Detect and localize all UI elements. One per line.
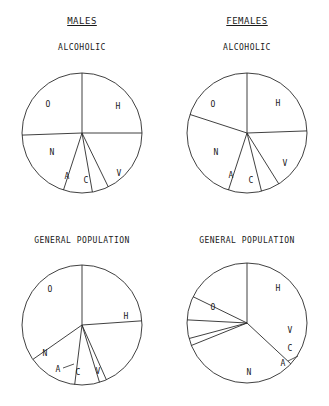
column-header-females: FEMALES [187,16,307,26]
slice-label-n: N [50,148,55,157]
slice-label-n: N [43,349,48,358]
panel-title-bottom-left: GENERAL POPULATION [2,236,162,245]
slice-label-o: O [46,100,51,109]
slice-label-a: A [65,172,70,181]
slice-label-o: O [211,303,216,312]
panel-title-top-left: ALCOHOLIC [2,43,162,52]
slice-label-a: A [281,359,286,368]
pie-chart-bottom-right: ONACVH [183,259,311,387]
slice-label-o: O [211,100,216,109]
slice-label-c: C [249,176,254,185]
slice-label-c: C [288,344,293,353]
pie-chart-top-right: ONACVH [183,69,311,197]
pie-chart-bottom-left: ONACVH [18,261,146,389]
column-header-males: MALES [22,16,142,26]
panel-title-bottom-right: GENERAL POPULATION [167,236,327,245]
slice-label-h: H [276,284,281,293]
slice-label-n: N [247,368,252,377]
slice-label-c: C [84,176,89,185]
slice-label-v: V [283,159,288,168]
panel-title-top-right: ALCOHOLIC [167,43,327,52]
slice-label-a: A [229,171,234,180]
slice-label-v: V [288,326,293,335]
slice-label-h: H [276,99,281,108]
figure-canvas: MALESFEMALES ALCOHOLICALCOHOLICGENERAL P… [0,0,329,406]
slice-label-h: H [116,102,121,111]
slice-label-c: C [76,368,81,377]
slice-label-h: H [124,312,129,321]
slice-label-n: N [214,148,219,157]
slice-label-v: V [96,367,101,376]
slice-label-v: V [117,169,122,178]
slice-label-a: A [56,365,61,374]
pie-chart-top-left: ONACVH [18,69,146,197]
slice-label-o: O [48,285,53,294]
